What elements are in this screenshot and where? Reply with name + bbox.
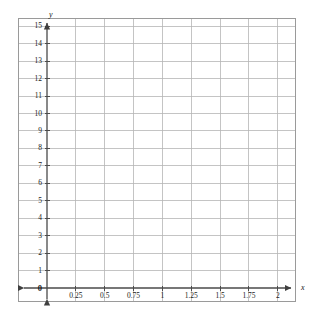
x-tick-label: 1.25	[185, 292, 198, 300]
x-tick-label: 1.75	[242, 292, 255, 300]
x-tick-label: 0.5	[100, 292, 109, 300]
x-tick-label: 0.25	[69, 292, 82, 300]
graph-drawing-surface	[0, 0, 315, 321]
y-tick-label: 9	[38, 127, 42, 135]
y-tick-label: 15	[35, 23, 43, 31]
y-tick-label: 1	[38, 267, 42, 275]
x-axis-label: x	[301, 284, 305, 292]
y-axis-label: y	[49, 11, 53, 19]
origin-label: 0	[38, 284, 42, 293]
y-tick-label: 6	[38, 180, 42, 188]
x-tick-label: 1	[161, 292, 165, 300]
x-tick-label: 0.75	[127, 292, 140, 300]
y-tick-label: 2	[38, 249, 42, 257]
y-tick-label: 12	[35, 75, 43, 83]
coordinate-grid-graph: 123456789101112131415 0.250.50.7511.251.…	[0, 0, 315, 321]
y-tick-label: 7	[38, 162, 42, 170]
y-tick-label: 10	[35, 110, 43, 118]
y-tick-label: 11	[35, 92, 42, 100]
y-tick-label: 8	[38, 145, 42, 153]
y-tick-label: 4	[38, 214, 42, 222]
y-tick-label: 14	[35, 40, 43, 48]
y-tick-label: 5	[38, 197, 42, 205]
x-tick-label: 2	[276, 292, 280, 300]
y-tick-label: 3	[38, 232, 42, 240]
y-tick-label: 13	[35, 57, 43, 65]
horizontal-gridlines	[19, 26, 295, 270]
x-tick-label: 1.5	[215, 292, 224, 300]
